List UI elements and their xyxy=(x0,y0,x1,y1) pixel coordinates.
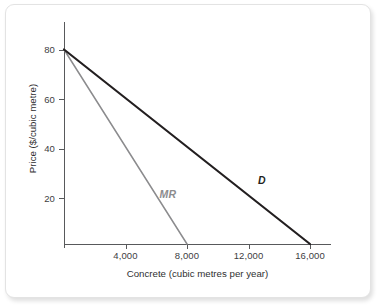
y-tick-mark-60 xyxy=(59,99,64,100)
y-tick-mark-20 xyxy=(59,198,64,199)
marginal-revenue-curve-label: MR xyxy=(159,188,176,200)
demand-curve xyxy=(64,50,310,245)
x-axis-title: Concrete (cubic metres per year) xyxy=(64,268,331,279)
chart-plot-area: 80 60 40 20 4,000 8,000 12,000 16,000 Pr… xyxy=(6,5,371,298)
marginal-revenue-curve xyxy=(64,50,187,245)
x-tick-label-4000: 4,000 xyxy=(103,250,149,261)
x-tick-mark-4000 xyxy=(126,244,127,249)
x-axis-line xyxy=(64,244,331,245)
y-tick-mark-80 xyxy=(59,50,64,51)
y-axis-title: Price ($/cubic metre) xyxy=(27,59,38,199)
y-axis-line xyxy=(64,22,65,248)
x-tick-label-12000: 12,000 xyxy=(226,250,272,261)
y-tick-label-80: 80 xyxy=(31,44,55,55)
x-tick-label-16000: 16,000 xyxy=(287,250,333,261)
x-tick-mark-12000 xyxy=(249,244,250,249)
x-tick-mark-16000 xyxy=(310,244,311,249)
x-tick-mark-8000 xyxy=(187,244,188,249)
y-tick-mark-40 xyxy=(59,149,64,150)
demand-curve-label: D xyxy=(258,174,266,186)
x-tick-label-8000: 8,000 xyxy=(164,250,210,261)
figure-card: 80 60 40 20 4,000 8,000 12,000 16,000 Pr… xyxy=(5,4,371,298)
